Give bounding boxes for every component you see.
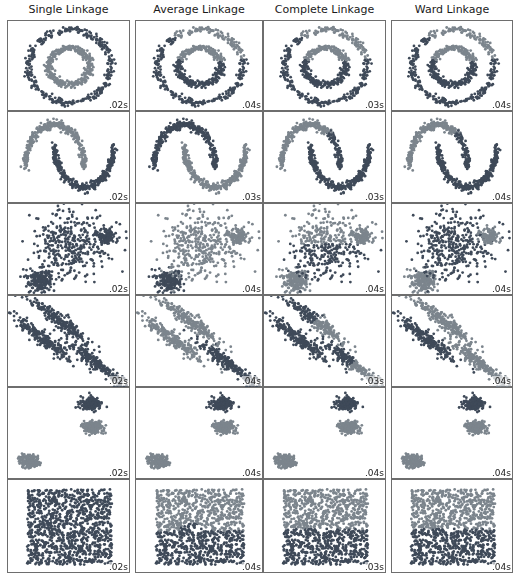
col-title-complete: Complete Linkage [263,3,386,19]
timing-label: .02s [109,468,128,478]
scatter-plot [136,204,264,296]
timing-label: .04s [492,192,511,202]
scatter-plot [264,296,387,388]
scatter-plot [8,204,131,296]
scatter-panel-average-noisy_circles: .04s [135,20,263,111]
timing-label: .04s [492,100,511,110]
scatter-panel-average-aniso: .04s [135,295,263,387]
timing-label: .02s [109,192,128,202]
scatter-plot [8,296,131,388]
scatter-plot [264,480,387,574]
timing-label: .04s [242,376,261,386]
timing-label: .03s [365,192,384,202]
timing-label: .04s [492,284,511,294]
scatter-panel-complete-no_structure: .03s [263,479,386,573]
timing-label: .03s [365,376,384,386]
timing-label: .03s [242,192,261,202]
scatter-plot [264,112,387,204]
timing-label: .02s [109,100,128,110]
scatter-plot [8,480,131,574]
timing-label: .02s [109,562,128,572]
scatter-panel-complete-varied: .04s [263,203,386,295]
col-title-single: Single Linkage [7,3,130,19]
scatter-plot [8,388,131,480]
scatter-panel-single-varied: .02s [7,203,130,295]
scatter-panel-average-blobs: .04s [135,387,263,479]
scatter-plot [136,112,264,204]
timing-label: .04s [242,468,261,478]
scatter-panel-complete-aniso: .03s [263,295,386,387]
col-title-average: Average Linkage [135,3,263,19]
scatter-plot [392,296,514,388]
scatter-panel-single-no_structure: .02s [7,479,130,573]
scatter-plot [264,21,387,112]
scatter-plot [8,112,131,204]
scatter-plot [392,21,514,112]
scatter-panel-ward-no_structure: .04s [391,479,513,573]
scatter-panel-ward-noisy_circles: .04s [391,20,513,111]
scatter-panel-single-blobs: .02s [7,387,130,479]
scatter-panel-ward-aniso: .04s [391,295,513,387]
scatter-panel-ward-varied: .04s [391,203,513,295]
scatter-plot [264,388,387,480]
scatter-plot [264,204,387,296]
scatter-plot [136,296,264,388]
timing-label: .04s [242,284,261,294]
scatter-plot [392,480,514,574]
scatter-plot [136,388,264,480]
scatter-panel-single-noisy_moons: .02s [7,111,130,203]
scatter-plot [136,21,264,112]
timing-label: .04s [242,562,261,572]
scatter-panel-single-noisy_circles: .02s [7,20,130,111]
scatter-plot [392,204,514,296]
timing-label: .04s [365,284,384,294]
timing-label: .04s [242,100,261,110]
scatter-plot [8,21,131,112]
timing-label: .04s [492,562,511,572]
scatter-panel-complete-noisy_moons: .03s [263,111,386,203]
timing-label: .03s [365,562,384,572]
scatter-panel-single-aniso: .02s [7,295,130,387]
timing-label: .02s [109,376,128,386]
scatter-panel-complete-blobs: .04s [263,387,386,479]
timing-label: .04s [365,468,384,478]
timing-label: .04s [492,468,511,478]
timing-label: .02s [109,284,128,294]
col-title-ward: Ward Linkage [391,3,513,19]
scatter-panel-average-varied: .04s [135,203,263,295]
scatter-plot [392,112,514,204]
scatter-panel-average-no_structure: .04s [135,479,263,573]
timing-label: .03s [365,100,384,110]
scatter-panel-ward-noisy_moons: .04s [391,111,513,203]
scatter-plot [392,388,514,480]
timing-label: .04s [492,376,511,386]
scatter-panel-average-noisy_moons: .03s [135,111,263,203]
scatter-plot [136,480,264,574]
scatter-panel-complete-noisy_circles: .03s [263,20,386,111]
scatter-panel-ward-blobs: .04s [391,387,513,479]
